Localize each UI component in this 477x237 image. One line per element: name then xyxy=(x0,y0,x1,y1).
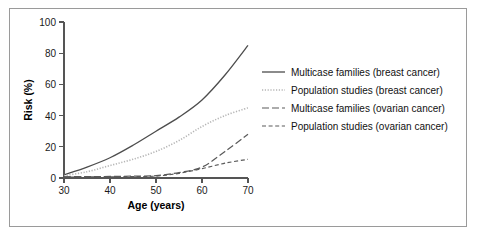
x-tick-label: 70 xyxy=(242,185,254,196)
chart-legend: Multicase families (breast cancer) Popul… xyxy=(262,67,448,132)
y-tick-label: 60 xyxy=(45,79,57,90)
y-axis-tick-labels: 100 80 60 40 20 0 xyxy=(39,17,56,184)
chart-canvas: 100 80 60 40 20 0 30 40 50 60 7 xyxy=(10,9,466,226)
y-tick-label: 0 xyxy=(50,173,56,184)
x-axis-ticks xyxy=(64,178,248,183)
legend-label: Population studies (breast cancer) xyxy=(291,85,443,96)
x-axis-title: Age (years) xyxy=(127,199,184,211)
legend-item: Population studies (ovarian cancer) xyxy=(262,121,448,132)
legend-item: Multicase families (breast cancer) xyxy=(262,67,440,78)
legend-label: Multicase families (breast cancer) xyxy=(291,67,440,78)
x-tick-label: 50 xyxy=(150,185,162,196)
series-group xyxy=(64,45,248,177)
x-axis-tick-labels: 30 40 50 60 70 xyxy=(58,185,254,196)
legend-item: Multicase families (ovarian cancer) xyxy=(262,103,445,114)
y-axis-title: Risk (%) xyxy=(22,79,34,120)
figure-frame: 100 80 60 40 20 0 30 40 50 60 7 xyxy=(9,8,467,227)
y-tick-label: 40 xyxy=(45,111,57,122)
x-tick-label: 30 xyxy=(58,185,70,196)
figure-container: 100 80 60 40 20 0 30 40 50 60 7 xyxy=(0,0,477,237)
y-tick-label: 100 xyxy=(39,17,56,28)
y-tick-label: 20 xyxy=(45,142,57,153)
x-tick-label: 60 xyxy=(196,185,208,196)
series-line-3 xyxy=(64,159,248,177)
y-tick-label: 80 xyxy=(45,48,57,59)
legend-label: Multicase families (ovarian cancer) xyxy=(291,103,445,114)
x-tick-label: 40 xyxy=(104,185,116,196)
legend-item: Population studies (breast cancer) xyxy=(262,85,443,96)
y-axis-ticks xyxy=(59,22,64,178)
legend-label: Population studies (ovarian cancer) xyxy=(291,121,448,132)
